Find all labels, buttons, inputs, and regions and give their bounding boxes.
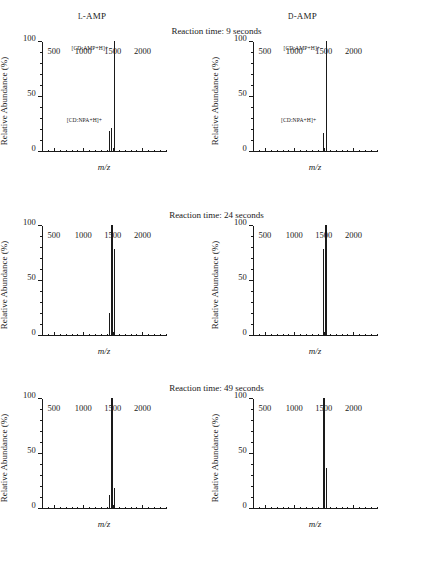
spectrum-peak (114, 249, 115, 335)
y-tick-minor (40, 431, 43, 432)
y-axis-title: Relative Abundance (%) (0, 414, 9, 502)
x-tick-minor (160, 334, 161, 337)
y-tick-minor (251, 247, 254, 248)
column-header-l-amp: L-AMP (78, 11, 106, 21)
x-tick-minor (60, 150, 61, 153)
x-tick-minor (77, 507, 78, 510)
x-tick-minor (342, 150, 343, 153)
x-tick-minor (365, 150, 366, 153)
y-tick-major (249, 508, 253, 509)
y-tick-minor (251, 52, 254, 53)
x-tick-minor (365, 334, 366, 337)
x-tick-minor (306, 150, 307, 153)
x-tick-major (294, 148, 295, 152)
y-tick-label: 100 (23, 217, 36, 226)
x-tick-minor (60, 507, 61, 510)
x-tick-minor (277, 507, 278, 510)
x-tick-major (353, 148, 354, 152)
x-tick-minor (359, 507, 360, 510)
x-tick-label: 500 (47, 47, 60, 56)
spectrum-peak (109, 495, 110, 508)
x-tick-minor (330, 507, 331, 510)
x-tick-minor (77, 150, 78, 153)
x-tick-label: 500 (47, 404, 60, 413)
y-axis-line (253, 226, 254, 336)
x-tick-minor (66, 507, 67, 510)
x-tick-minor (318, 150, 319, 153)
y-tick-minor (251, 324, 254, 325)
peak-annotation: [CD:AMP+H]+ (72, 45, 109, 51)
x-tick-minor (342, 334, 343, 337)
y-tick-major (38, 508, 42, 509)
x-tick-minor (131, 507, 132, 510)
y-tick-major (38, 225, 42, 226)
y-tick-minor (40, 291, 43, 292)
row-title-9-seconds: Reaction time: 9 seconds (5, 26, 423, 36)
x-tick-minor (288, 150, 289, 153)
x-tick-minor (300, 150, 301, 153)
x-tick-minor (95, 507, 96, 510)
y-tick-label: 100 (234, 33, 247, 42)
x-tick-major (142, 148, 143, 152)
y-tick-minor (251, 313, 254, 314)
x-tick-major (353, 332, 354, 336)
y-tick-minor (251, 431, 254, 432)
y-tick-minor (251, 107, 254, 108)
y-tick-minor (40, 486, 43, 487)
x-tick-major (294, 332, 295, 336)
y-axis-title: Relative Abundance (%) (0, 57, 9, 145)
spectrum-panel-row1-left: Relative Abundance (%)m/z050100500100015… (0, 36, 175, 166)
y-tick-minor (40, 52, 43, 53)
x-tick-minor (66, 334, 67, 337)
x-tick-minor (89, 150, 90, 153)
plot-area: 050100500100015002000[CD:NPA+H]+[CD:AMP+… (253, 42, 377, 152)
x-tick-minor (101, 507, 102, 510)
y-tick-major (249, 41, 253, 42)
y-tick-label: 0 (243, 327, 247, 336)
x-tick-major (142, 505, 143, 509)
column-header-d-amp: D-AMP (288, 11, 317, 21)
y-tick-minor (251, 497, 254, 498)
row-title-24-seconds: Reaction time: 24 seconds (5, 210, 423, 220)
x-axis-title: m/z (98, 162, 111, 172)
figure-mass-spectra: L-AMP D-AMP Reaction time: 9 seconds Rea… (0, 0, 423, 564)
x-tick-minor (377, 150, 378, 153)
x-tick-major (294, 505, 295, 509)
peak-annotation: [CD:NPA+H]+ (281, 117, 316, 123)
x-tick-minor (48, 150, 49, 153)
y-tick-label: 50 (238, 88, 247, 97)
x-tick-label: 1000 (75, 231, 92, 240)
x-tick-label: 2000 (134, 404, 151, 413)
x-tick-minor (300, 334, 301, 337)
spectrum-peak (323, 249, 324, 335)
y-tick-minor (40, 464, 43, 465)
x-tick-minor (330, 150, 331, 153)
x-axis-title: m/z (309, 162, 322, 172)
x-tick-minor (107, 507, 108, 510)
y-tick-label: 0 (32, 500, 36, 509)
y-tick-label: 100 (234, 217, 247, 226)
x-tick-minor (119, 507, 120, 510)
y-tick-minor (251, 74, 254, 75)
x-tick-minor (277, 150, 278, 153)
x-tick-major (265, 148, 266, 152)
y-tick-minor (40, 258, 43, 259)
y-tick-minor (40, 497, 43, 498)
y-tick-minor (251, 63, 254, 64)
x-tick-minor (318, 507, 319, 510)
y-tick-minor (40, 302, 43, 303)
y-tick-minor (251, 118, 254, 119)
x-tick-minor (136, 334, 137, 337)
y-tick-label: 0 (32, 327, 36, 336)
column-header-l-amp-rest: -AMP (83, 11, 106, 21)
y-tick-minor (40, 324, 43, 325)
x-tick-minor (131, 150, 132, 153)
y-axis-line (42, 226, 43, 336)
x-tick-minor (330, 334, 331, 337)
y-tick-label: 50 (238, 445, 247, 454)
x-tick-minor (371, 150, 372, 153)
y-tick-major (249, 335, 253, 336)
y-tick-minor (40, 107, 43, 108)
x-tick-label: 1500 (104, 404, 121, 413)
x-axis-title: m/z (98, 519, 111, 529)
